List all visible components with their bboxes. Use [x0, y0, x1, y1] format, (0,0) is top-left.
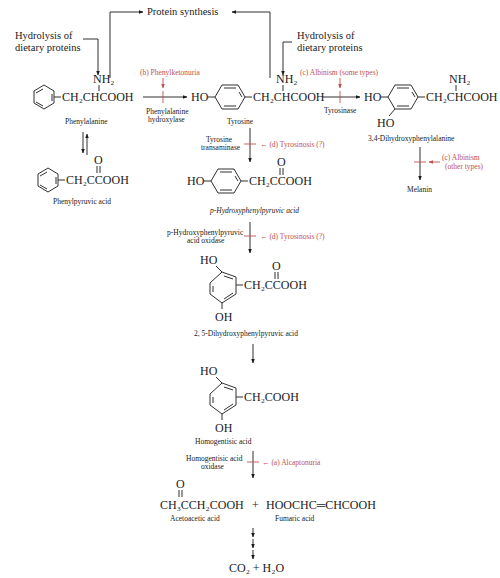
phenylpyruvic-keto: O	[94, 153, 103, 167]
homogentisic-name: Homogentisic acid	[195, 437, 252, 446]
disorder-tyrosinosis-1: ← (d) Tyrosinosis (?)	[260, 140, 325, 149]
reaction-hppa-to-dhppa: ← (d) Tyrosinosis (?) p-Hydroxyphenylpyr…	[167, 222, 325, 253]
benzene-ring	[211, 169, 241, 193]
compound-hppa: HO CH₂CCOOH O p-Hydroxyphenylpyruvic aci…	[187, 155, 312, 215]
enzyme-tat-line2: transaminase	[201, 143, 241, 152]
arrow-to-protein-synthesis-left	[110, 12, 143, 78]
disorder-albinism-other-line2: (other types)	[445, 162, 484, 171]
dopa-ho: HO	[364, 90, 382, 104]
benzene-ring	[215, 85, 245, 109]
plus-sign: +	[252, 498, 259, 512]
dhppa-keto: O	[272, 259, 281, 273]
compound-phenylalanine: CH₂CHCOOH NH₂ Phenylalanine	[34, 72, 134, 126]
hydrolysis-right-line2: dietary proteins	[297, 42, 363, 53]
enzyme-pah-line2: hydroxylase	[148, 115, 185, 124]
dopa-formula: CH₂CHCOOH	[426, 90, 498, 104]
benzene-ring	[388, 85, 418, 109]
dopa-name: 3,4-Dihydroxyphenylalanine	[368, 134, 455, 143]
homogentisic-ho: HO	[200, 364, 218, 378]
acetoacetic-formula: CH₃CCH₂COOH	[160, 498, 244, 512]
hydrolysis-right-arrow	[283, 42, 292, 75]
compound-dopa: HO HO CH₂CHCOOH NH₂ 3,4-Dihydroxyphenyla…	[364, 72, 498, 143]
phenylalanine-amine: NH₂	[93, 72, 115, 86]
hppa-ho: HO	[187, 174, 205, 188]
reaction-homogentisic-to-products: ← (a) Alcaptonuria Homogentisic acid oxi…	[186, 451, 321, 478]
hydrolysis-left: Hydrolysis of dietary proteins	[15, 30, 98, 75]
equilibrium-phe-phenylpyruvic	[83, 132, 87, 155]
dhppa-ho: HO	[200, 253, 218, 267]
homogentisic-formula: CH₂COOH	[244, 390, 299, 404]
reaction-to-co2-h2o: CO₂ + H₂O	[229, 528, 284, 575]
dopa-amine: NH₂	[449, 72, 471, 86]
final-products: CO₂ + H₂O	[229, 561, 284, 575]
hydrolysis-right-line1: Hydrolysis of	[297, 30, 355, 41]
compound-phenylpyruvic-acid: CH₂CCOOH O Phenylpyruvic acid	[38, 153, 129, 206]
tyrosine-ho: HO	[191, 90, 209, 104]
dopa-ho2: HO	[377, 116, 395, 130]
tyrosine-name: Tyrosine	[227, 117, 254, 126]
hydrolysis-left-line2: dietary proteins	[15, 42, 81, 53]
benzene-ring	[210, 272, 236, 303]
disorder-albinism-some: (c) Albinism (some types)	[300, 68, 379, 77]
enzyme-hppd-line2: acid oxidase	[187, 236, 225, 245]
acetoacetic-keto: O	[176, 477, 185, 491]
compound-products: O CH₃CCH₂COOH + HOOCHC═CHCOOH Acetoaceti…	[160, 477, 376, 523]
melanin-name: Melanin	[407, 185, 432, 194]
disorder-pku: (b) Phenylketonuria	[140, 68, 200, 77]
phenylpyruvic-name: Phenylpyruvic acid	[53, 197, 111, 206]
protein-synthesis-label: Protein synthesis	[147, 6, 218, 17]
benzene-ring	[38, 168, 58, 192]
tyrosine-formula: CH₂CHCOOH	[253, 90, 325, 104]
disorder-albinism-other-line1: (c) Albinism	[442, 153, 480, 162]
fumaric-formula: HOOCHC═CHCOOH	[266, 498, 376, 512]
phenylalanine-formula: CH₂CHCOOH	[62, 90, 134, 104]
homogentisic-oh: OH	[215, 421, 233, 435]
fumaric-name: Fumaric acid	[275, 514, 315, 523]
enzyme-tyrosinase: Tyrosinase	[324, 106, 357, 115]
benzene-ring	[34, 85, 54, 109]
tyrosine-amine: NH₂	[276, 72, 298, 86]
benzene-ring	[210, 383, 236, 414]
compound-dhppa: HO CH₂CCOOH O OH 2, 5-Dihydroxyphenylpyr…	[194, 253, 307, 338]
phenylpyruvic-formula: CH₂CCOOH	[66, 173, 129, 187]
dhppa-formula: CH₂CCOOH	[244, 278, 307, 292]
compound-tyrosine: HO CH₂CHCOOH NH₂ Tyrosine	[191, 72, 325, 126]
hppa-formula: CH₂CCOOH	[249, 174, 312, 188]
hydrolysis-left-arrow	[83, 39, 98, 75]
reaction-tyr-to-hppa: ← (d) Tyrosinosis (?) Tyrosine transamin…	[201, 128, 325, 162]
compound-homogentisic-acid: HO CH₂COOH OH Homogentisic acid	[195, 364, 299, 446]
phenylalanine-name: Phenylalanine	[65, 117, 108, 126]
disorder-alcaptonuria: ← (a) Alcaptonuria	[262, 458, 321, 467]
dhppa-name: 2, 5-Dihydroxyphenylpyruvic acid	[194, 329, 298, 338]
dhppa-oh: OH	[215, 310, 233, 324]
acetoacetic-name: Acetoacetic acid	[170, 514, 220, 523]
hppa-keto: O	[277, 155, 286, 169]
disorder-tyrosinosis-2: ← (d) Tyrosinosis (?)	[260, 232, 325, 241]
metabolic-pathway-diagram: Protein synthesis Hydrolysis of dietary …	[0, 0, 500, 578]
reaction-dopa-to-melanin: (c) Albinism (other types) Melanin	[407, 147, 484, 194]
hydrolysis-left-line1: Hydrolysis of	[15, 30, 73, 41]
hppa-name: p-Hydroxyphenylpyruvic acid	[209, 206, 299, 215]
enzyme-hgo-line2: oxidase	[201, 462, 225, 471]
